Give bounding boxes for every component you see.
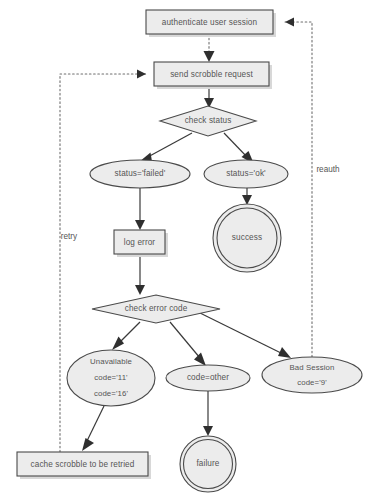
edge-unavailable-to-cache [82,406,104,451]
node-label-line-1: Bad Session [290,363,335,372]
node-log-error[interactable]: log error [114,230,168,257]
arrowhead [285,18,294,27]
node-authenticate-user-session[interactable]: authenticate user session [146,10,276,37]
node-label: failure [197,459,220,468]
edge-check-code-to-unavailable [112,322,140,350]
arrowhead [135,220,145,230]
node-bad-session[interactable]: Bad Session code='9' [262,357,362,393]
edge-check-code-to-other [170,322,206,366]
node-label: check status [185,116,232,125]
node-success[interactable]: success [213,204,281,272]
node-label-line-1: Unavailable [90,357,132,366]
node-status-ok[interactable]: status='ok' [204,160,288,188]
edge-log-error-to-check-code [135,254,145,295]
edge-other-to-failure [203,391,213,436]
node-label-line-3: code='16' [94,389,128,398]
node-label: send scrobble request [170,70,253,79]
arrowhead [112,337,124,351]
edge-ok-to-success [242,188,252,205]
node-code-other[interactable]: code=other [166,365,250,391]
edge-check-status-to-failed [139,133,192,162]
edge-send-to-check-status [204,86,214,108]
node-label: code=other [187,373,229,382]
arrowhead [203,426,213,436]
node-check-error-code[interactable]: check error code [92,295,220,323]
edge-check-status-to-ok [224,133,254,164]
flowchart-canvas: authenticate user session send scrobble … [0,0,371,500]
arrowhead [137,70,146,79]
edge-bad-session-to-authenticate-reauth [285,18,312,358]
node-unavailable[interactable]: Unavailable code='11' code='16' [67,350,155,406]
node-failure[interactable]: failure [180,436,236,492]
arrowhead [135,285,145,295]
node-label: status='ok' [226,169,266,178]
node-label: log error [124,238,156,247]
node-label: check error code [125,304,188,313]
edge-label-reauth: reauth [316,165,340,174]
node-label: cache scrobble to be retried [31,460,135,469]
node-label-line-2: code='9' [297,378,327,387]
edge-check-code-to-bad-session [198,312,291,358]
node-cache-scrobble[interactable]: cache scrobble to be retried [17,452,151,479]
edge-label-retry: retry [61,232,78,241]
node-check-status[interactable]: check status [160,106,256,136]
node-status-failed[interactable]: status='failed' [90,160,190,188]
edge-authenticate-to-send [204,34,215,62]
arrowhead [278,347,291,358]
arrowhead [82,438,94,451]
edge-failed-to-log-error [135,188,145,230]
node-label: authenticate user session [162,18,258,27]
node-label: success [232,233,262,242]
node-send-scrobble-request[interactable]: send scrobble request [154,62,272,89]
arrowhead [194,353,206,367]
arrowhead [204,51,215,62]
node-label-line-2: code='11' [94,373,128,382]
node-label: status='failed' [115,169,166,178]
flowchart-diagram: authenticate user session send scrobble … [0,0,371,500]
